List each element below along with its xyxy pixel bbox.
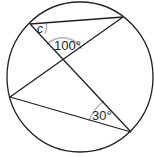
label-angle-c: c xyxy=(37,22,43,36)
chord-diagonal-up xyxy=(10,17,123,97)
label-angle-30: 30° xyxy=(92,108,112,123)
chord-bottom xyxy=(10,97,131,132)
label-angle-100: 100° xyxy=(54,38,81,53)
angle-arc-c xyxy=(45,23,46,34)
circle-diagram: c 100° 30° xyxy=(0,0,154,157)
chord-top xyxy=(30,17,123,24)
